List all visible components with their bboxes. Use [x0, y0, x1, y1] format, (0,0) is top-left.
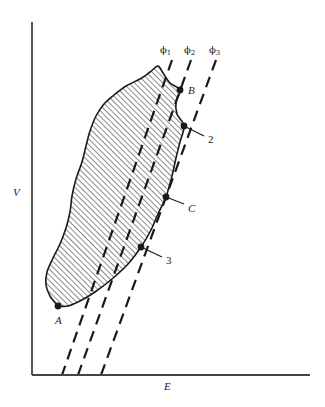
point-dot-C [163, 194, 170, 201]
y-axis-label: V [13, 186, 20, 198]
point-dot-3 [138, 244, 145, 251]
point-dot-B [177, 87, 184, 94]
plot-svg [0, 0, 325, 407]
x-axis-label: E [164, 380, 171, 392]
point-label-2: 2 [208, 133, 214, 145]
point-label-B: B [188, 84, 195, 96]
point-label-C: C [188, 202, 195, 214]
point-label-3: 3 [166, 254, 172, 266]
phi-label-3: ϕ3 [209, 44, 220, 55]
point-dot-A [55, 303, 62, 310]
phi-label-2: ϕ2 [184, 44, 195, 55]
point-label-A: A [55, 314, 62, 326]
point-dot-2 [181, 123, 188, 130]
diagram-canvas: V E ϕ1ϕ2ϕ3 ABC23 [0, 0, 325, 407]
phi-label-1: ϕ1 [160, 44, 171, 55]
